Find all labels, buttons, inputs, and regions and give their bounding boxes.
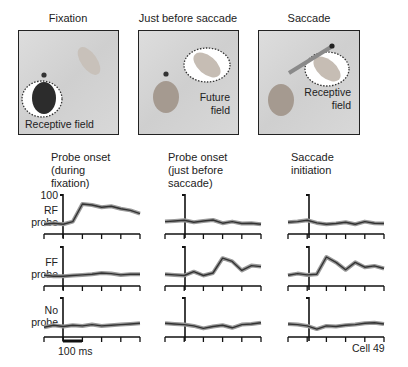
scalebar-label: 100 ms	[58, 345, 92, 357]
psth-plots	[0, 0, 408, 367]
cell-label: Cell 49	[352, 342, 385, 354]
